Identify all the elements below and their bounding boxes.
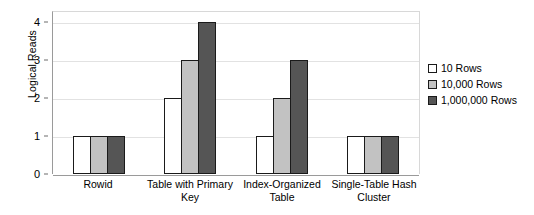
x-axis-category-label: Index-Organized Table xyxy=(236,178,328,204)
y-axis-tick-label: 1 xyxy=(34,130,40,142)
y-axis-tick-mark xyxy=(44,22,48,23)
bar xyxy=(381,136,399,174)
bar-chart-figure: Logical Reads 01234 RowidTable with Prim… xyxy=(0,0,534,215)
bar-group xyxy=(53,12,145,174)
bar xyxy=(364,136,382,174)
bar xyxy=(290,60,308,174)
legend-swatch xyxy=(428,64,437,73)
plot-area xyxy=(52,11,420,174)
chart-legend: 10 Rows10,000 Rows1,000,000 Rows xyxy=(428,63,517,106)
legend-label: 10 Rows xyxy=(441,63,482,74)
y-axis-tick-mark xyxy=(44,136,48,137)
legend-swatch xyxy=(428,96,437,105)
legend-item: 10,000 Rows xyxy=(428,79,517,90)
y-axis-tick-label: 3 xyxy=(34,54,40,66)
x-axis-category-label: Rowid xyxy=(52,178,144,204)
x-axis-category-label: Single-Table Hash Cluster xyxy=(328,178,420,204)
axis-baseline xyxy=(53,175,419,176)
y-axis-tick-mark xyxy=(44,60,48,61)
bar-groups xyxy=(53,12,419,174)
bar xyxy=(273,98,291,174)
bar xyxy=(90,136,108,174)
y-axis-tick-labels: 01234 xyxy=(26,11,44,174)
legend-label: 1,000,000 Rows xyxy=(441,95,517,106)
bar xyxy=(73,136,91,174)
y-axis-tick-label: 2 xyxy=(34,92,40,104)
y-axis-tick-label: 0 xyxy=(34,168,40,180)
bar xyxy=(107,136,125,174)
bar-group xyxy=(328,12,420,174)
bar-group xyxy=(145,12,237,174)
legend-item: 1,000,000 Rows xyxy=(428,95,517,106)
x-axis-category-label: Table with Primary Key xyxy=(144,178,236,204)
bar xyxy=(164,98,182,174)
legend-label: 10,000 Rows xyxy=(441,79,502,90)
legend-swatch xyxy=(428,80,437,89)
bar xyxy=(256,136,274,174)
y-axis-tick-mark xyxy=(44,174,48,175)
bar xyxy=(347,136,365,174)
bar xyxy=(181,60,199,174)
legend-item: 10 Rows xyxy=(428,63,517,74)
bar xyxy=(198,22,216,174)
bar-group xyxy=(236,12,328,174)
y-axis-tick-mark xyxy=(44,98,48,99)
y-axis-tick-label: 4 xyxy=(34,16,40,28)
x-axis-category-labels: RowidTable with Primary KeyIndex-Organiz… xyxy=(52,178,420,204)
